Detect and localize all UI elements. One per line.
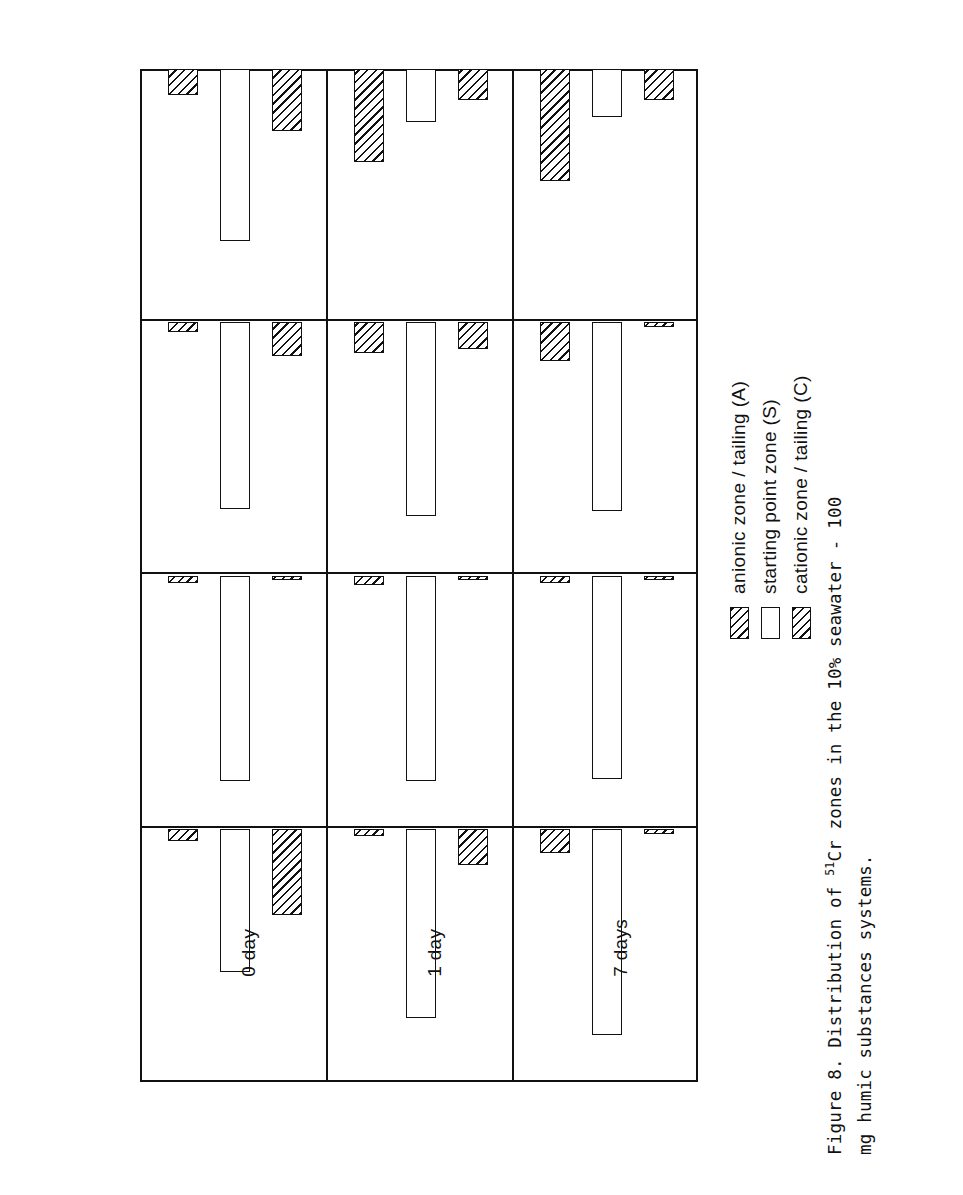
group-separator <box>142 319 326 321</box>
bar-HAC-C <box>272 322 302 355</box>
bar-FAC-S <box>406 69 436 122</box>
legend-swatch-hatched-cationic <box>792 607 811 639</box>
bar-10-C <box>458 829 488 865</box>
legend-label-cationic: cationic zone / tailing (C) <box>790 375 812 594</box>
group-separator <box>142 573 326 575</box>
figure-rotated-container: anionic zone / tailing (A) starting poin… <box>0 0 963 1195</box>
group-separator <box>328 826 512 828</box>
bar-HAC-A <box>354 322 384 353</box>
caption-text-post: Cr zones in the 10% seawater - 100 <box>825 497 845 862</box>
bar-HAM-C <box>458 576 488 581</box>
caption-text-pre: Figure 8. Distribution of <box>825 876 845 1155</box>
bar-FAC-A <box>354 69 384 162</box>
bar-HAC-S <box>406 322 436 516</box>
group-separator <box>328 319 512 321</box>
legend: anionic zone / tailing (A) starting poin… <box>726 375 819 639</box>
caption-line-2: mg humic substances systems. <box>855 854 875 1155</box>
bar-HAC-A <box>540 322 570 360</box>
bar-HAM-S <box>220 576 250 782</box>
bar-10-A <box>168 829 198 841</box>
bar-HAC-S <box>220 322 250 509</box>
chart-panel-7-days: 7 days <box>512 69 698 1082</box>
chart-plot-area: 0 day1 day7 days <box>140 69 698 1082</box>
group-separator <box>142 826 326 828</box>
bar-FAC-A <box>168 69 198 95</box>
bar-FAC-C <box>458 69 488 100</box>
legend-item-cationic: cationic zone / tailing (C) <box>788 375 814 639</box>
bar-HAC-S <box>592 322 622 511</box>
bar-10-S <box>406 829 436 1018</box>
group-separator <box>514 319 696 321</box>
bar-FAC-A <box>540 69 570 181</box>
legend-item-starting-point: starting point zone (S) <box>757 375 783 639</box>
bar-FAC-C <box>272 69 302 131</box>
chart-panel-1-day: 1 day <box>326 69 512 1082</box>
bar-10-A <box>354 829 384 836</box>
bar-HAM-S <box>406 576 436 782</box>
bar-HAM-A <box>354 576 384 586</box>
bar-HAM-A <box>540 576 570 583</box>
group-separator <box>514 573 696 575</box>
legend-item-anionic: anionic zone / tailing (A) <box>726 375 752 639</box>
bar-10-C <box>272 829 302 915</box>
bar-HAM-C <box>644 576 674 581</box>
bar-HAC-C <box>458 322 488 348</box>
bar-HAM-C <box>272 576 302 581</box>
panel-time-label: 7 days <box>610 919 632 977</box>
bar-10-A <box>540 829 570 853</box>
panel-time-label: 1 day <box>424 929 446 977</box>
bar-10-C <box>644 829 674 834</box>
figure-caption: Figure 8. Distribution of 51Cr zones in … <box>815 75 880 1155</box>
legend-swatch-hatched-anionic <box>730 607 749 639</box>
bar-HAC-C <box>644 322 674 327</box>
bar-FAC-C <box>644 69 674 100</box>
bar-HAC-A <box>168 322 198 332</box>
group-separator <box>514 826 696 828</box>
bar-HAM-A <box>168 576 198 583</box>
chart-panel-0-day: 0 day <box>140 69 326 1082</box>
group-separator <box>328 573 512 575</box>
panel-time-label: 0 day <box>238 929 260 977</box>
legend-label-starting-point: starting point zone (S) <box>759 399 781 594</box>
bar-FAC-S <box>592 69 622 117</box>
caption-isotope-superscript: 51 <box>823 862 837 876</box>
legend-swatch-open-starting-point <box>761 607 780 639</box>
bar-HAM-S <box>592 576 622 779</box>
bar-FAC-S <box>220 69 250 241</box>
legend-label-anionic: anionic zone / tailing (A) <box>728 381 750 594</box>
